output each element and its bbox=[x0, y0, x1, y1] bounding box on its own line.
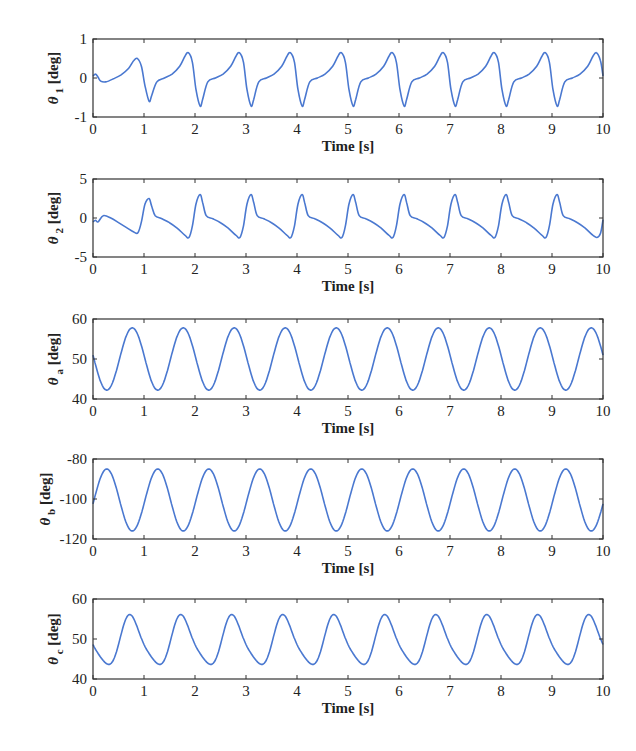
y-tick-label: -80 bbox=[67, 451, 87, 467]
x-tick-label: 8 bbox=[497, 543, 505, 559]
series-line-theta_c bbox=[93, 615, 603, 665]
y-tick-label: 0 bbox=[80, 70, 88, 86]
y-axis-label: θ 1 [deg] bbox=[45, 52, 65, 104]
x-tick-label: 9 bbox=[548, 121, 556, 137]
x-tick-label: 2 bbox=[191, 543, 199, 559]
x-axis-label: Time [s] bbox=[322, 278, 375, 294]
x-tick-label: 3 bbox=[242, 543, 250, 559]
x-tick-label: 2 bbox=[191, 121, 199, 137]
y-axis-label: θ a [deg] bbox=[45, 333, 65, 385]
x-tick-label: 8 bbox=[497, 261, 505, 277]
figure: 012345678910-101Time [s]θ 1 [deg]0123456… bbox=[0, 0, 636, 751]
x-tick-label: 3 bbox=[242, 121, 250, 137]
x-tick-label: 4 bbox=[293, 683, 301, 699]
subplot-2: 012345678910-505Time [s]θ 2 [deg] bbox=[45, 171, 611, 294]
x-tick-label: 7 bbox=[446, 543, 454, 559]
x-tick-label: 10 bbox=[596, 543, 611, 559]
axes-frame bbox=[93, 599, 603, 679]
x-tick-label: 7 bbox=[446, 683, 454, 699]
x-tick-label: 7 bbox=[446, 121, 454, 137]
axes-frame bbox=[93, 319, 603, 399]
x-tick-label: 1 bbox=[140, 121, 148, 137]
x-tick-label: 10 bbox=[596, 683, 611, 699]
x-tick-label: 6 bbox=[395, 683, 403, 699]
x-tick-label: 1 bbox=[140, 683, 148, 699]
y-tick-label: 60 bbox=[72, 311, 87, 327]
x-tick-label: 7 bbox=[446, 261, 454, 277]
x-tick-label: 6 bbox=[395, 403, 403, 419]
y-tick-label: 50 bbox=[72, 631, 87, 647]
series-line-theta_b bbox=[93, 469, 603, 531]
x-tick-label: 9 bbox=[548, 683, 556, 699]
x-tick-label: 2 bbox=[191, 683, 199, 699]
x-tick-label: 9 bbox=[548, 543, 556, 559]
x-tick-label: 5 bbox=[344, 543, 352, 559]
x-tick-label: 3 bbox=[242, 261, 250, 277]
series-line-theta_1 bbox=[93, 52, 603, 106]
x-tick-label: 1 bbox=[140, 543, 148, 559]
x-axis-label: Time [s] bbox=[322, 560, 375, 576]
x-tick-label: 8 bbox=[497, 683, 505, 699]
x-tick-label: 10 bbox=[596, 121, 611, 137]
x-axis-label: Time [s] bbox=[322, 420, 375, 436]
x-tick-label: 10 bbox=[596, 261, 611, 277]
x-tick-label: 7 bbox=[446, 403, 454, 419]
x-tick-label: 3 bbox=[242, 403, 250, 419]
x-tick-label: 5 bbox=[344, 683, 352, 699]
axes-frame bbox=[93, 179, 603, 257]
x-axis-label: Time [s] bbox=[322, 700, 375, 716]
x-tick-label: 0 bbox=[89, 261, 97, 277]
x-tick-label: 2 bbox=[191, 261, 199, 277]
y-axis-label: θ c [deg] bbox=[45, 613, 65, 665]
y-tick-label: -100 bbox=[60, 491, 88, 507]
x-tick-label: 1 bbox=[140, 261, 148, 277]
x-tick-label: 9 bbox=[548, 261, 556, 277]
series-line-theta_a bbox=[93, 328, 603, 390]
x-tick-label: 0 bbox=[89, 543, 97, 559]
x-tick-label: 6 bbox=[395, 543, 403, 559]
x-tick-label: 8 bbox=[497, 121, 505, 137]
y-tick-label: 50 bbox=[72, 351, 87, 367]
x-tick-label: 1 bbox=[140, 403, 148, 419]
y-axis-label: θ 2 [deg] bbox=[45, 192, 65, 244]
series-line-theta_2 bbox=[93, 195, 603, 238]
x-tick-label: 0 bbox=[89, 403, 97, 419]
x-tick-label: 4 bbox=[293, 261, 301, 277]
x-tick-label: 0 bbox=[89, 683, 97, 699]
x-tick-label: 2 bbox=[191, 403, 199, 419]
y-tick-label: 40 bbox=[72, 391, 87, 407]
y-tick-label: 1 bbox=[80, 31, 88, 47]
y-tick-label: 0 bbox=[80, 210, 88, 226]
x-tick-label: 5 bbox=[344, 121, 352, 137]
x-axis-label: Time [s] bbox=[322, 138, 375, 154]
subplot-1: 012345678910-101Time [s]θ 1 [deg] bbox=[45, 31, 611, 154]
subplot-c: 012345678910405060Time [s]θ c [deg] bbox=[45, 591, 611, 716]
x-tick-label: 10 bbox=[596, 403, 611, 419]
y-tick-label: -1 bbox=[75, 109, 88, 125]
x-tick-label: 4 bbox=[293, 403, 301, 419]
y-axis-label: θ b [deg] bbox=[37, 473, 57, 526]
y-tick-label: 60 bbox=[72, 591, 87, 607]
x-tick-label: 4 bbox=[293, 543, 301, 559]
subplot-b: 012345678910-120-100-80Time [s]θ b [deg] bbox=[37, 451, 611, 576]
x-tick-label: 5 bbox=[344, 403, 352, 419]
y-tick-label: -5 bbox=[75, 249, 88, 265]
subplot-a: 012345678910405060Time [s]θ a [deg] bbox=[45, 311, 611, 436]
x-tick-label: 6 bbox=[395, 261, 403, 277]
x-tick-label: 0 bbox=[89, 121, 97, 137]
x-tick-label: 8 bbox=[497, 403, 505, 419]
y-tick-label: 40 bbox=[72, 671, 87, 687]
x-tick-label: 3 bbox=[242, 683, 250, 699]
x-tick-label: 4 bbox=[293, 121, 301, 137]
x-tick-label: 9 bbox=[548, 403, 556, 419]
y-tick-label: 5 bbox=[80, 171, 88, 187]
x-tick-label: 5 bbox=[344, 261, 352, 277]
y-tick-label: -120 bbox=[60, 531, 88, 547]
x-tick-label: 6 bbox=[395, 121, 403, 137]
